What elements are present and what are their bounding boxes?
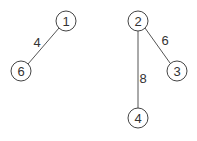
edge-2-4: 8 (138, 31, 147, 108)
node-label: 1 (62, 14, 69, 29)
edge-weight-label: 6 (161, 33, 168, 48)
edge-2-3: 6 (145, 28, 170, 63)
node-3: 3 (167, 61, 187, 81)
edge-weight-label: 4 (33, 35, 40, 50)
edge-weight-label: 8 (139, 71, 146, 86)
node-2: 2 (128, 11, 148, 31)
node-label: 6 (17, 64, 24, 79)
edge-1-6: 4 (28, 28, 59, 64)
node-label: 3 (173, 64, 180, 79)
node-6: 6 (11, 61, 31, 81)
graph-canvas: 4 6 8 1 6 2 3 4 (0, 0, 197, 141)
node-label: 4 (134, 111, 141, 126)
node-4: 4 (128, 108, 148, 128)
node-1: 1 (56, 11, 76, 31)
node-label: 2 (134, 14, 141, 29)
